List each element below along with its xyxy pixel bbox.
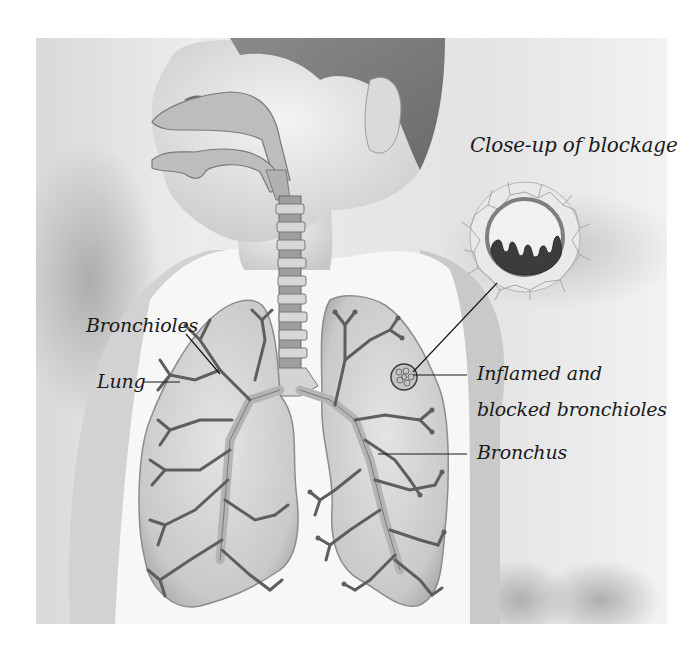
label-bronchus: Bronchus (477, 441, 567, 463)
label-closeup-title: Close-up of blockage (470, 134, 678, 156)
label-inflamed-line1: Inflamed and (477, 362, 602, 384)
inflamed-bronchiole-marker (391, 364, 417, 390)
label-bronchioles: Bronchioles (86, 314, 198, 336)
label-inflamed-line2: blocked bronchioles (477, 398, 667, 420)
label-lung: Lung (97, 370, 145, 392)
